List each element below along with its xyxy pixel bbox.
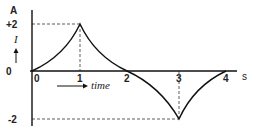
x-tick-3: 3 bbox=[176, 73, 182, 84]
axes bbox=[30, 10, 237, 126]
time-label: time bbox=[91, 79, 110, 91]
y-symbol-label: I bbox=[13, 33, 19, 45]
x-tick-2: 2 bbox=[124, 73, 130, 84]
y-tick-plus2: +2 bbox=[6, 19, 18, 30]
x-tick-0: 0 bbox=[34, 73, 40, 84]
y-tick-minus2: -2 bbox=[8, 114, 17, 125]
y-unit-label: A bbox=[10, 5, 17, 16]
x-unit-label: s bbox=[242, 71, 247, 82]
current-time-chart: A +2 0 -2 I 0 1 2 3 4 s time bbox=[0, 0, 257, 134]
x-tick-1: 1 bbox=[77, 73, 83, 84]
up-arrow-icon bbox=[14, 48, 19, 63]
right-arrow-icon bbox=[57, 84, 88, 89]
y-tick-0: 0 bbox=[6, 66, 12, 77]
x-tick-4: 4 bbox=[223, 73, 229, 84]
